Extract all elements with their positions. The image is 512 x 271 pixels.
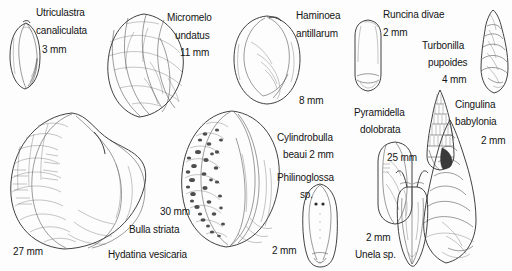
label-cingulina-size: 2 mm xyxy=(481,135,505,147)
label-haminoea-species: antillarum xyxy=(296,28,338,40)
label-turbonilla-species: pupoides xyxy=(428,57,467,69)
runcina-divae-body xyxy=(352,18,384,94)
pyramidella-dolobrata-shell xyxy=(416,88,464,172)
label-micromelo-genus: Micromelo xyxy=(167,12,212,24)
label-haminoea-genus: Haminoea xyxy=(296,10,340,22)
illustration-plate: Utriculastra canaliculata 3 mm Micromelo… xyxy=(0,0,512,271)
label-utriculastra-size: 3 mm xyxy=(42,44,66,56)
label-turbonilla-size: 4 mm xyxy=(442,74,466,86)
label-utriculastra-genus: Utriculastra xyxy=(36,7,85,19)
label-cylindrobulla-species-size: beaui 2 mm xyxy=(283,149,334,161)
label-haminoea-size: 8 mm xyxy=(299,95,323,107)
label-runcina-size: 2 mm xyxy=(383,27,407,39)
label-hydatina-size: 27 mm xyxy=(13,246,43,258)
turbonilla-pupoides-shell xyxy=(473,8,512,96)
label-bulla-size: 30 mm xyxy=(160,206,190,218)
label-micromelo-species: undatus xyxy=(175,30,210,42)
label-unela-name: Unela sp. xyxy=(355,249,396,261)
label-unela-size: 2 mm xyxy=(366,232,390,244)
bulla-striata-shell xyxy=(176,108,286,250)
label-micromelo-size: 11 mm xyxy=(180,47,209,59)
label-utriculastra-species: canaliculata xyxy=(36,25,87,37)
label-turbonilla-genus: Turbonilla xyxy=(422,40,464,52)
label-philinoglossa-species: sp. xyxy=(300,189,313,201)
hydatina-vesicaria-shell xyxy=(6,110,156,252)
label-pyramidella-genus: Pyramidella xyxy=(354,107,405,119)
label-hydatina-name: Hydatina vesicaria xyxy=(108,249,187,261)
label-pyramidella-species: dolobrata xyxy=(360,124,400,136)
label-runcina-name: Runcina divae xyxy=(383,9,444,21)
micromelo-undatus-shell xyxy=(104,12,188,120)
haminoea-antillarum-shell xyxy=(231,14,303,106)
